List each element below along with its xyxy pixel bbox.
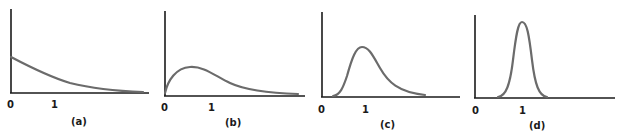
tick-0: 0 (7, 99, 14, 110)
tick-1: 1 (362, 104, 369, 115)
panel-label: (d) (529, 120, 545, 131)
panel-b: 0 1 (b) (161, 11, 305, 128)
panel-label: (c) (380, 119, 395, 130)
density-curve (498, 22, 547, 97)
panel-label: (a) (71, 116, 87, 127)
density-curve (11, 57, 143, 92)
tick-1: 1 (208, 102, 215, 113)
tick-0: 0 (472, 105, 479, 116)
panel-d: 0 1 (d) (472, 15, 615, 131)
panel-label: (b) (225, 117, 241, 128)
density-curve (165, 67, 298, 94)
tick-1: 1 (519, 105, 526, 116)
tick-1: 1 (51, 99, 58, 110)
tick-0: 0 (161, 102, 168, 113)
figure-four-density-panels: 0 1 (a) 0 1 (b) 0 1 (c) 0 1 (d) (0, 0, 620, 137)
panel-c: 0 1 (c) (318, 12, 460, 130)
panel-a: 0 1 (a) (7, 9, 149, 127)
density-curve (333, 47, 425, 96)
tick-0: 0 (318, 104, 325, 115)
